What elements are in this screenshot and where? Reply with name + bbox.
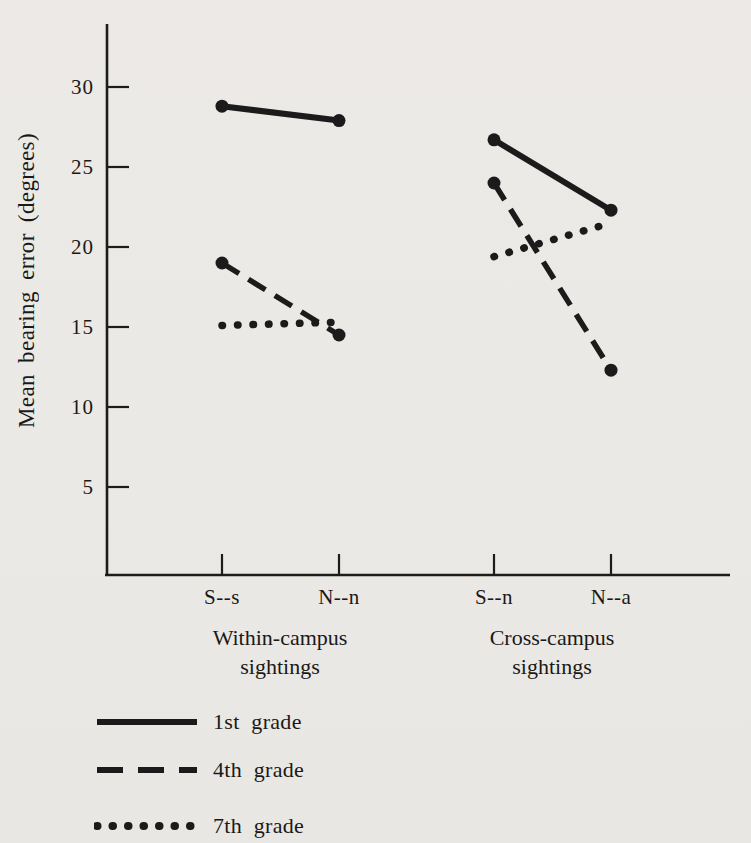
data-point-4th-grade (605, 364, 618, 377)
y-tick-label-25: 25 (36, 154, 94, 180)
legend-line-sample-solid (94, 714, 200, 730)
y-tick-label-20: 20 (36, 234, 94, 260)
legend-item-4th-grade: 4th grade (94, 756, 304, 784)
series-line-7th-grade (494, 223, 611, 257)
y-tick-label-10: 10 (36, 394, 94, 420)
y-tick-label-15: 15 (36, 314, 94, 340)
series-line-4th-grade (494, 183, 611, 370)
y-tick-label-30: 30 (36, 74, 94, 100)
x-category-label-sn: S--n (434, 585, 554, 610)
data-point-4th-grade (488, 177, 501, 190)
data-point-1st-grade (333, 114, 346, 127)
legend-item-7th-grade: 7th grade (94, 812, 304, 840)
legend-item-1st-grade: 1st grade (94, 708, 302, 736)
group-label-within-campus: Within-campus sightings (160, 623, 400, 681)
data-point-1st-grade (488, 133, 501, 146)
x-category-label-ss: S--s (162, 585, 282, 610)
group-label-line1: Within-campus (160, 623, 400, 652)
legend-line-sample-dashed (94, 762, 200, 778)
series-line-1st-grade (222, 106, 339, 120)
series-line-7th-grade (222, 322, 339, 325)
data-point-1st-grade (216, 100, 229, 113)
legend-label: 7th grade (213, 813, 304, 839)
series-line-1st-grade (494, 140, 611, 210)
figure-page: Mean bearing error (degrees) 30 25 20 15… (0, 0, 751, 843)
x-category-label-nn: N--n (279, 585, 399, 610)
legend-label: 4th grade (213, 757, 304, 783)
group-label-cross-campus: Cross-campus sightings (432, 623, 672, 681)
group-label-line2: sightings (160, 652, 400, 681)
group-label-line2: sightings (432, 652, 672, 681)
y-tick-label-5: 5 (36, 474, 94, 500)
data-point-4th-grade (333, 329, 346, 342)
data-point-4th-grade (216, 257, 229, 270)
data-point-1st-grade (605, 204, 618, 217)
legend-line-sample-dotted (94, 818, 200, 834)
x-category-label-na: N--a (551, 585, 671, 610)
group-label-line1: Cross-campus (432, 623, 672, 652)
legend-label: 1st grade (213, 709, 302, 735)
